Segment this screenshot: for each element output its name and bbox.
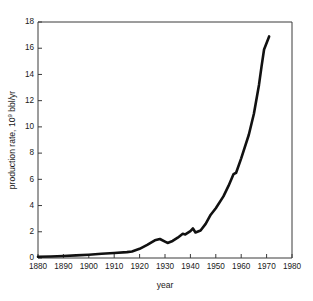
x-tick-label: 1910 bbox=[105, 262, 124, 271]
y-tick-label: 14 bbox=[25, 70, 35, 79]
y-tick-label: 18 bbox=[25, 17, 35, 26]
x-tick-label: 1950 bbox=[207, 262, 226, 271]
x-tick-label: 1980 bbox=[283, 262, 302, 271]
production-rate-line-chart: 024681012141618 188018901900191019201930… bbox=[0, 0, 313, 301]
y-tick-label: 8 bbox=[29, 148, 34, 157]
x-tick-label: 1920 bbox=[130, 262, 149, 271]
chart-container: 024681012141618 188018901900191019201930… bbox=[0, 0, 313, 301]
y-axis-title: production rate, 109 bbl/yr bbox=[7, 91, 17, 190]
y-tick-label: 6 bbox=[29, 175, 34, 184]
y-axis-title-suffix: bbl/yr bbox=[7, 91, 17, 115]
y-tick-label: 2 bbox=[29, 227, 34, 236]
y-tick-label: 16 bbox=[25, 43, 35, 52]
y-axis-title-prefix: production rate, 10 bbox=[7, 117, 17, 189]
x-tick-label: 1890 bbox=[54, 262, 73, 271]
x-tick-label: 1930 bbox=[156, 262, 175, 271]
x-tick-label: 1970 bbox=[257, 262, 276, 271]
x-tick-label: 1880 bbox=[29, 262, 48, 271]
y-tick-label: 10 bbox=[25, 122, 35, 131]
x-tick-label: 1900 bbox=[80, 262, 99, 271]
y-tick-label: 12 bbox=[25, 96, 35, 105]
x-axis-title: year bbox=[157, 280, 174, 290]
y-tick-label: 4 bbox=[29, 201, 34, 210]
x-tick-label: 1940 bbox=[181, 262, 200, 271]
x-tick-label: 1960 bbox=[232, 262, 251, 271]
